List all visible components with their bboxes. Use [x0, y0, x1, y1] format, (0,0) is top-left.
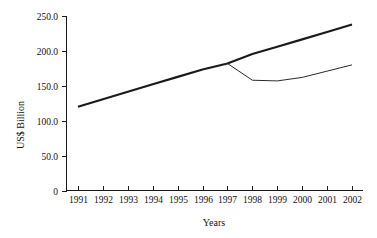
x-axis-title: Years	[203, 217, 225, 228]
x-tick-label: 1995	[169, 195, 188, 205]
y-axis-title: US$ Billion	[15, 101, 26, 149]
x-tick-label: 1999	[268, 195, 287, 205]
x-tick-label: 2002	[343, 195, 362, 205]
x-tick-label: 1998	[243, 195, 262, 205]
y-tick-label: 250.0	[37, 12, 59, 22]
y-axis	[62, 16, 67, 192]
y-tick-label: 200.0	[37, 47, 59, 57]
x-tick-marks	[79, 186, 353, 191]
x-tick-label: 1997	[218, 195, 237, 205]
y-tick-label: 100.0	[37, 117, 59, 127]
y-tick-labels: 050.0100.0150.0200.0250.0	[37, 12, 59, 197]
series-line-actual	[227, 63, 352, 80]
series-group	[78, 24, 352, 106]
x-axis	[67, 186, 363, 191]
x-tick-label: 2001	[318, 195, 337, 205]
series-line-trend	[78, 24, 352, 106]
y-tick-label: 0	[53, 187, 58, 197]
x-tick-label: 1996	[194, 195, 213, 205]
x-tick-label: 2000	[293, 195, 312, 205]
y-tick-label: 150.0	[37, 82, 59, 92]
x-tick-label: 1993	[119, 195, 138, 205]
x-tick-label: 1994	[144, 195, 163, 205]
y-tick-marks	[62, 17, 67, 192]
x-tick-label: 1992	[94, 195, 113, 205]
chart-canvas: 050.0100.0150.0200.0250.0 19911992199319…	[0, 0, 377, 238]
x-tick-label: 1991	[69, 195, 88, 205]
line-chart: 050.0100.0150.0200.0250.0 19911992199319…	[0, 0, 377, 238]
y-tick-label: 50.0	[41, 152, 58, 162]
x-tick-labels: 1991199219931994199519961997199819992000…	[69, 195, 362, 205]
